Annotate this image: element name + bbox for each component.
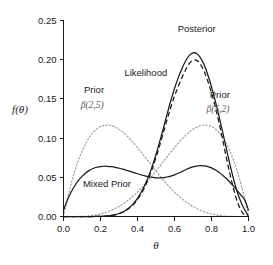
- y-tick-label: 0.20: [38, 54, 57, 65]
- x-tick-label: 0.0: [57, 223, 70, 234]
- y-axis-title: f(θ): [12, 103, 28, 116]
- y-tick-label: 0.05: [38, 172, 57, 183]
- x-tick-label: 0.2: [94, 223, 107, 234]
- x-tick-label: 0.4: [131, 223, 144, 234]
- likelihood-label: Likelihood: [124, 67, 167, 78]
- y-axis-tick-labels: 0.000.050.100.150.200.25: [38, 15, 57, 222]
- x-tick-label: 0.6: [168, 223, 181, 234]
- curve-prior-beta-5-2: [64, 125, 249, 216]
- prior-left-params: β(2,5): [80, 100, 104, 111]
- prior-left-label: Prior: [84, 84, 104, 95]
- y-axis-ticks: [60, 21, 64, 217]
- x-tick-label: 0.8: [205, 223, 218, 234]
- x-tick-label: 1.0: [242, 223, 255, 234]
- prior-right-label: Prior: [210, 89, 230, 100]
- y-tick-label: 0.25: [38, 15, 57, 26]
- prior-right-params: β(5,2): [206, 104, 230, 115]
- beta-mixture-bayes-chart: 0.000.050.100.150.200.25 0.00.20.40.60.8…: [0, 0, 273, 265]
- y-tick-label: 0.15: [38, 93, 57, 104]
- y-tick-label: 0.00: [38, 211, 57, 222]
- posterior-label: Posterior: [178, 23, 216, 34]
- chart-annotations: PosteriorLikelihoodPriorβ(2,5)Priorβ(5,2…: [80, 23, 230, 189]
- x-axis-title: θ: [153, 239, 159, 251]
- y-tick-label: 0.10: [38, 133, 57, 144]
- mixed-prior-label: Mixed Prior: [83, 178, 131, 189]
- curve-likelihood: [64, 60, 249, 217]
- x-axis-tick-labels: 0.00.20.40.60.81.0: [57, 223, 255, 234]
- chart-canvas: 0.000.050.100.150.200.25 0.00.20.40.60.8…: [0, 0, 273, 265]
